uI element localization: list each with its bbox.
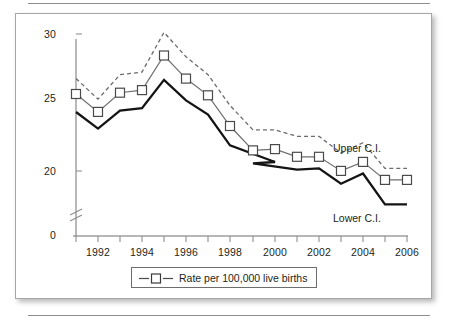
data-marker [204,91,213,100]
x-axis-tick-label-1994: 1994 [124,246,160,258]
data-marker [116,88,125,97]
y-axis-tick-label-0: 0 [34,229,56,241]
data-marker [337,166,346,175]
x-axis-tick-label-2000: 2000 [257,246,293,258]
data-marker [403,175,412,184]
legend-label: Rate per 100,000 live births [179,272,307,284]
data-marker [249,146,258,155]
data-marker [138,86,147,95]
x-axis-tick-label-2004: 2004 [345,246,381,258]
x-axis-tick-label-1992: 1992 [80,246,116,258]
data-marker [293,152,302,161]
x-ticks [76,236,407,242]
data-marker [226,122,235,131]
page-rule-top [28,3,430,4]
legend-marker-icon [137,271,175,284]
data-marker [359,157,368,166]
y-axis-tick-label-20: 20 [34,165,56,177]
data-marker [315,152,324,161]
x-axis-tick-label-1996: 1996 [168,246,204,258]
page-rule-bottom [28,315,430,316]
data-marker [94,107,103,116]
upper-ci-annotation: Upper C.I. [333,142,381,154]
y-axis-tick-label-30: 30 [34,28,56,40]
data-marker [160,51,169,60]
lower-ci-annotation: Lower C.I. [333,212,381,224]
chart-legend: Rate per 100,000 live births [131,267,317,288]
data-marker [271,145,280,154]
x-axis-tick-label-2002: 2002 [301,246,337,258]
axes-group [70,34,408,242]
chart-figure-box: 30 25 20 0 1992 1994 1996 1998 2000 2002… [15,13,432,299]
x-axis-tick-label-2006: 2006 [389,246,425,258]
chart-plot-area: 30 25 20 0 1992 1994 1996 1998 2000 2002… [16,14,431,298]
data-marker [182,74,191,83]
data-marker [72,90,81,99]
y-axis-tick-label-25: 25 [34,92,56,104]
data-marker [381,175,390,184]
x-axis-tick-label-1998: 1998 [212,246,248,258]
